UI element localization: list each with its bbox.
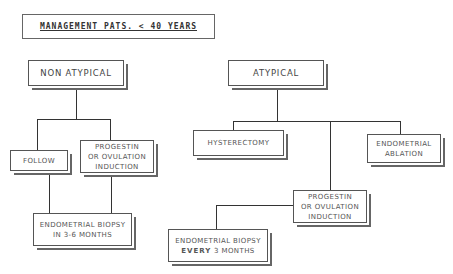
node-label-line: OR OVULATION xyxy=(88,152,146,162)
node-label-line: EVERY 3 MONTHS xyxy=(181,246,254,256)
connector xyxy=(330,121,331,191)
node-endometrial-ablation: ENDOMETRIAL ABLATION xyxy=(367,134,441,163)
diagram-title: MANAGEMENT PATS. < 40 YEARS xyxy=(22,14,215,39)
diagram-title-text: MANAGEMENT PATS. < 40 YEARS xyxy=(40,22,197,31)
emphasis-text: EVERY xyxy=(181,247,211,255)
node-non-atypical: NON ATYPICAL xyxy=(28,60,124,86)
node-label-line: OR OVULATION xyxy=(301,202,359,212)
node-label-text: 3 MONTHS xyxy=(211,247,254,255)
node-label: ATYPICAL xyxy=(253,68,299,78)
node-label-line: INDUCTION xyxy=(95,162,138,172)
connector xyxy=(37,119,111,120)
node-hysterectomy: HYSTERECTOMY xyxy=(193,130,284,156)
node-progestin-atypical: PROGESTIN OR OVULATION INDUCTION xyxy=(293,190,367,223)
node-label-line: INDUCTION xyxy=(308,212,351,222)
node-label-line: PROGESTIN xyxy=(95,142,139,152)
node-label: FOLLOW xyxy=(23,156,55,166)
node-biopsy-non-atypical: ENDOMETRIAL BIOPSY IN 3-6 MONTHS xyxy=(33,213,132,246)
connector xyxy=(277,86,278,121)
connector xyxy=(76,86,77,120)
connector xyxy=(400,121,401,135)
connector xyxy=(233,121,401,122)
connector xyxy=(111,172,112,213)
connector xyxy=(49,170,50,213)
node-label-line: IN 3-6 MONTHS xyxy=(53,230,112,240)
node-biopsy-atypical: ENDOMETRIAL BIOPSY EVERY 3 MONTHS xyxy=(168,229,268,262)
node-atypical: ATYPICAL xyxy=(228,60,324,86)
node-label-line: ENDOMETRIAL BIOPSY xyxy=(175,236,261,246)
node-follow: FOLLOW xyxy=(10,150,68,171)
connector xyxy=(110,119,111,141)
connector xyxy=(37,119,38,150)
node-label-line: ENDOMETRIAL BIOPSY xyxy=(40,220,126,230)
node-label-line: PROGESTIN xyxy=(308,192,352,202)
node-label: NON ATYPICAL xyxy=(40,68,111,78)
node-progestin-non-atypical: PROGESTIN OR OVULATION INDUCTION xyxy=(80,140,154,173)
node-label-line: ENDOMETRIAL xyxy=(376,139,431,149)
node-label-line: ABLATION xyxy=(385,149,423,159)
node-label: HYSTERECTOMY xyxy=(208,138,270,148)
connector xyxy=(216,205,217,230)
connector xyxy=(216,205,294,206)
